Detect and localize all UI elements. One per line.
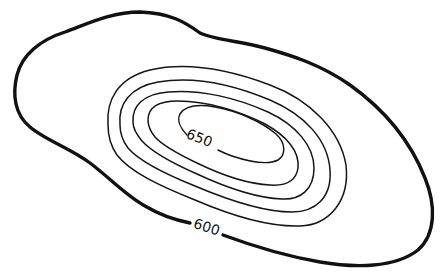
contour-640	[148, 101, 298, 185]
contour-610	[108, 66, 347, 226]
contour-label-650: 650	[184, 125, 215, 150]
contour-600	[15, 12, 433, 266]
contour-map: 650 600	[0, 0, 440, 274]
contour-label-600: 600	[192, 215, 222, 238]
